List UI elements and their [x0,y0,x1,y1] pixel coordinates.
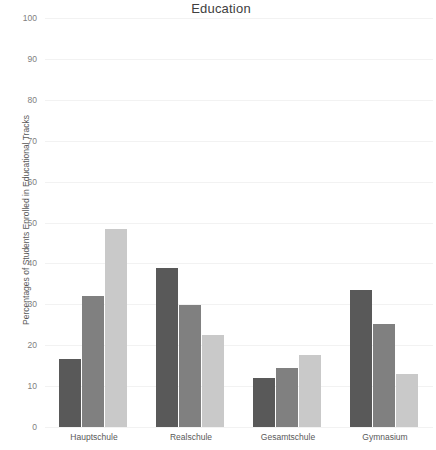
bar[interactable] [59,359,81,427]
bar-group: Hauptschule [59,18,128,427]
bar[interactable] [253,378,275,427]
bar[interactable] [299,355,321,427]
x-category-label: Realschule [136,432,246,442]
y-tick-label: 60 [0,182,37,183]
bar[interactable] [105,229,127,427]
y-tick-label: 100 [0,18,37,19]
y-tick-label: 70 [0,141,37,142]
bar[interactable] [82,296,104,427]
gridline [45,427,433,428]
y-tick-label: 10 [0,386,37,387]
chart-title: Education [0,0,436,18]
y-tick-label: 80 [0,100,37,101]
x-category-label: Hauptschule [39,432,149,442]
y-tick-label: 20 [0,345,37,346]
x-category-label: Gymnasium [330,432,436,442]
bar[interactable] [396,374,418,427]
bar[interactable] [373,324,395,427]
bar-group: Gesamtschule [253,18,322,427]
bar-group: Gymnasium [350,18,419,427]
y-tick-label: 50 [0,223,37,224]
bar-group: Realschule [156,18,225,427]
education-bar-chart: Education Percentages of Students Enroll… [0,0,436,450]
y-tick-label: 90 [0,59,37,60]
y-tick-label: 0 [0,427,37,428]
y-tick-label: 40 [0,263,37,264]
y-tick-label: 30 [0,304,37,305]
bar[interactable] [156,268,178,428]
bar[interactable] [350,290,372,427]
bar[interactable] [202,335,224,427]
bar[interactable] [276,368,298,427]
bar[interactable] [179,305,201,427]
x-category-label: Gesamtschule [233,432,343,442]
plot-area: 0102030405060708090100HauptschuleRealsch… [45,18,433,427]
